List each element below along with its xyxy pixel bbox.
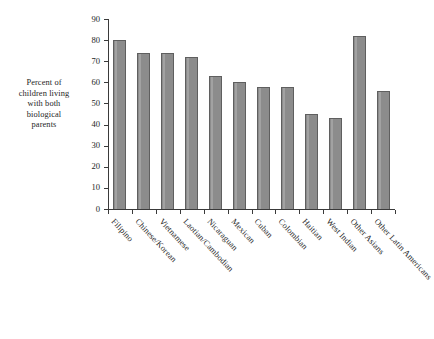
y-axis-tick bbox=[104, 61, 109, 62]
x-axis-tick bbox=[323, 210, 324, 214]
y-axis-tick-label: 0 bbox=[74, 205, 100, 214]
y-axis-tick-label: 20 bbox=[74, 162, 100, 171]
bar bbox=[329, 118, 342, 209]
y-axis-tick bbox=[104, 103, 109, 104]
bar bbox=[281, 87, 294, 209]
y-axis-label-line-2: children living bbox=[6, 89, 82, 100]
y-axis-label-line-3: with both bbox=[6, 99, 82, 110]
x-axis-tick bbox=[395, 210, 396, 214]
bar bbox=[257, 87, 270, 209]
y-axis-tick-label: 80 bbox=[74, 36, 100, 45]
x-axis-tick bbox=[275, 210, 276, 214]
y-axis-tick-label: 90 bbox=[74, 15, 100, 24]
y-axis-tick bbox=[104, 125, 109, 126]
y-axis-label-line-5: parents bbox=[6, 120, 82, 131]
x-axis-tick bbox=[132, 210, 133, 214]
y-axis-tick bbox=[104, 167, 109, 168]
y-axis-tick-label: 50 bbox=[74, 99, 100, 108]
y-axis-tick bbox=[104, 146, 109, 147]
x-axis-tick bbox=[252, 210, 253, 214]
y-axis-label: Percent of children living with both bio… bbox=[6, 78, 82, 131]
y-axis-label-line-1: Percent of bbox=[6, 78, 82, 89]
y-axis-tick bbox=[104, 82, 109, 83]
bar bbox=[209, 76, 222, 209]
y-axis-tick-label: 60 bbox=[74, 78, 100, 87]
y-axis-tick bbox=[104, 188, 109, 189]
y-axis-tick-label: 40 bbox=[74, 120, 100, 129]
bar bbox=[137, 53, 150, 209]
x-axis-tick bbox=[347, 210, 348, 214]
y-axis-tick-label: 10 bbox=[74, 183, 100, 192]
bar bbox=[185, 57, 198, 209]
x-axis-tick bbox=[180, 210, 181, 214]
y-axis-tick-label: 70 bbox=[74, 57, 100, 66]
y-axis-tick bbox=[104, 19, 109, 20]
y-axis-line bbox=[108, 19, 109, 210]
y-axis-tick bbox=[104, 40, 109, 41]
y-axis-label-line-4: biological bbox=[6, 110, 82, 121]
x-axis-category-label: Haitian bbox=[301, 217, 325, 242]
x-axis-tick bbox=[204, 210, 205, 214]
y-axis-tick-label: 30 bbox=[74, 141, 100, 150]
bar bbox=[233, 82, 246, 209]
x-axis-category-label: Filipino bbox=[109, 217, 134, 243]
bar bbox=[377, 91, 390, 209]
bar bbox=[113, 40, 126, 209]
x-axis-tick bbox=[228, 210, 229, 214]
bar bbox=[305, 114, 318, 209]
bar bbox=[161, 53, 174, 209]
x-axis-tick bbox=[156, 210, 157, 214]
x-axis-tick bbox=[108, 210, 109, 214]
x-axis-tick bbox=[299, 210, 300, 214]
bar bbox=[353, 36, 366, 209]
x-axis-category-label: Cuban bbox=[253, 217, 275, 240]
x-axis-tick bbox=[371, 210, 372, 214]
